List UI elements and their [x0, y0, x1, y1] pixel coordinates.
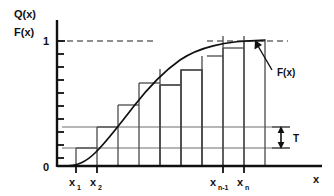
figure-container: Q(x) F(x) 1 0 x x 1 x 2 x n-1 x n F(x) T [0, 0, 334, 196]
x-tick-label-x1: x 1 [69, 176, 81, 191]
top-mask [0, 0, 334, 36]
x-tick-label-x2: x 2 [90, 176, 102, 191]
x-tick-label-xn-1-base: x [210, 176, 217, 188]
step-function-mid-steps-final [160, 56, 202, 166]
interval-marker-T [272, 126, 290, 149]
y-tick-label-zero: 0 [43, 161, 49, 173]
x-tick-label-xn-1: x n-1 [210, 176, 229, 191]
y-axis-label-q: Q(x) [14, 8, 36, 20]
x-tick-label-x2-base: x [90, 176, 97, 188]
step-function-top-steps [202, 41, 265, 166]
interval-label-t: T [293, 133, 299, 144]
curve-callout-leader [255, 40, 273, 70]
x-axis-label: x [313, 173, 320, 185]
x-tick-label-x1-base: x [69, 176, 76, 188]
x-tick-label-x1-sub: 1 [77, 184, 81, 191]
x-tick-label-xn: x n [237, 176, 249, 191]
x-tick-label-x2-sub: 2 [98, 184, 102, 191]
x-tick-label-xn-base: x [237, 176, 244, 188]
x-tick-label-xn-1-sub: n-1 [218, 184, 229, 191]
cdf-step-function-chart: Q(x) F(x) 1 0 x x 1 x 2 x n-1 x n F(x) T [0, 0, 334, 196]
mid-step-cleanup-mask [155, 36, 207, 69]
x-tick-label-xn-sub: n [245, 184, 249, 191]
y-tick-label-one: 1 [43, 35, 49, 47]
y-axis-label-f: F(x) [14, 26, 35, 38]
curve-label-fx: F(x) [277, 67, 295, 78]
